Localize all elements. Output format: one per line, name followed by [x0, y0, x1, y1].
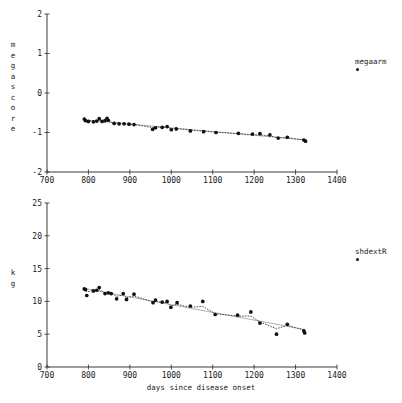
x-tick-label: 1000: [162, 176, 181, 185]
data-point: [92, 120, 96, 124]
data-point: [214, 131, 218, 135]
data-point: [275, 332, 279, 336]
data-point: [125, 298, 129, 302]
x-tick-label: 1300: [286, 371, 305, 380]
data-point: [160, 300, 164, 304]
x-tick-label: 1400: [327, 176, 346, 185]
x-tick-label: 800: [81, 371, 96, 380]
data-point: [122, 122, 126, 126]
y-tick-label: 25: [32, 199, 42, 208]
data-point: [303, 331, 307, 335]
data-point: [202, 130, 206, 134]
x-tick-label: 700: [40, 176, 55, 185]
data-point: [237, 131, 241, 135]
data-point: [97, 117, 101, 121]
data-point: [285, 323, 289, 327]
data-point: [213, 313, 217, 317]
x-tick-label: 1100: [203, 371, 222, 380]
ylab-letter: g: [6, 279, 20, 290]
data-point: [109, 292, 113, 296]
x-axis-title: days since disease onset: [0, 383, 402, 392]
regression-line: [84, 288, 304, 329]
x-tick-label: 1000: [162, 371, 181, 380]
data-point: [174, 127, 178, 131]
x-tick-label: 1100: [203, 176, 222, 185]
data-point: [132, 292, 136, 296]
data-point: [85, 294, 89, 298]
data-point: [112, 122, 116, 126]
data-point: [117, 122, 121, 126]
data-point: [84, 288, 88, 292]
figure-container: m e g a s c o r e -2-1012700800900100011…: [0, 0, 402, 403]
y-tick-label: 5: [37, 330, 42, 339]
shdextr-plot: 051015202570080090010001100120013001400: [0, 195, 402, 403]
y-tick-label: 10: [32, 297, 42, 306]
data-point: [251, 132, 255, 136]
data-point: [236, 313, 240, 317]
x-tick-label: 1200: [245, 371, 264, 380]
x-tick-label: 900: [123, 176, 138, 185]
data-point: [97, 286, 101, 290]
x-tick-label: 1300: [286, 176, 305, 185]
data-point: [121, 292, 125, 296]
filled-circle-icon: [356, 68, 359, 71]
megascore-panel: m e g a s c o r e -2-1012700800900100011…: [0, 0, 402, 200]
data-point: [160, 126, 164, 130]
y-tick-label: 1: [37, 49, 42, 58]
x-tick-label: 800: [81, 176, 96, 185]
x-tick-label: 700: [40, 371, 55, 380]
x-tick-label: 1200: [245, 176, 264, 185]
legend-megaarm: megaarm: [355, 57, 387, 71]
data-point: [103, 292, 107, 296]
data-point: [304, 139, 308, 143]
megascore-plot: -2-101270080090010001100120013001400: [0, 0, 402, 200]
data-point: [154, 298, 158, 302]
legend-label: shdextR: [355, 247, 387, 256]
y-tick-label: 15: [32, 265, 42, 274]
data-point: [188, 304, 192, 308]
shdextr-panel: 051015202570080090010001100120013001400: [0, 195, 402, 403]
data-point: [276, 136, 280, 140]
axis-spine: [47, 203, 337, 367]
data-point: [154, 126, 158, 130]
data-point: [175, 301, 179, 305]
x-tick-label: 1400: [327, 371, 346, 380]
trend-line: [84, 289, 304, 331]
ylab-letter: k: [6, 268, 20, 279]
data-point: [188, 129, 192, 133]
data-point: [115, 297, 119, 301]
data-point: [106, 118, 110, 122]
data-point: [169, 128, 173, 132]
y-tick-label: 0: [37, 89, 42, 98]
data-point: [258, 132, 262, 136]
data-point: [132, 123, 136, 127]
legend-label: megaarm: [355, 57, 387, 66]
x-tick-label: 900: [123, 371, 138, 380]
data-point: [285, 135, 289, 139]
legend-shdextr: shdextR: [355, 247, 387, 261]
data-point: [127, 122, 131, 126]
y-tick-label: 2: [37, 10, 42, 19]
data-point: [201, 300, 205, 304]
data-point: [165, 300, 169, 304]
data-point: [268, 133, 272, 137]
data-point: [258, 321, 262, 325]
data-point: [87, 120, 91, 124]
data-point: [165, 125, 169, 129]
y-tick-label: -1: [32, 128, 42, 137]
y-tick-label: 20: [32, 232, 42, 241]
y-axis-title-kg: k g: [6, 268, 20, 289]
data-point: [249, 310, 253, 314]
data-point: [169, 305, 173, 309]
axis-spine: [47, 14, 337, 172]
data-point: [92, 289, 96, 293]
filled-circle-icon: [356, 258, 359, 261]
